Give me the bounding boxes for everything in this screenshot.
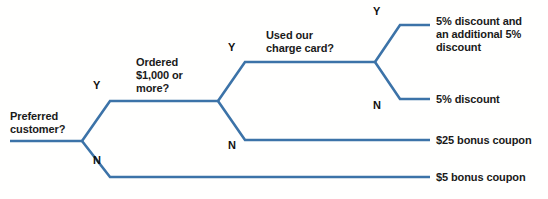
outcome-label-line: 5% discount [436, 93, 544, 106]
edge-node2-yes [218, 62, 375, 101]
node-label-line: Preferred [10, 110, 94, 123]
outcome-label-line: $5 bonus coupon [436, 171, 548, 184]
outcome-label-line: discount [436, 41, 544, 54]
branch-label-node2-yes: Y [228, 42, 235, 53]
outcome-label-line: an additional 5% [436, 28, 544, 41]
edge-node3-no [375, 62, 430, 99]
outcome-label-line: 5% discount and [436, 15, 544, 28]
branch-label-node1-yes: Y [93, 80, 100, 91]
edge-node3-yes [375, 25, 430, 62]
node-label-used-our-charge-card: Used our charge card? [266, 29, 350, 55]
edge-node1-no [82, 141, 430, 177]
node-label-preferred-customer: Preferred customer? [10, 110, 94, 136]
branch-label-node1-no: N [93, 155, 101, 166]
node-label-line: Ordered [136, 56, 216, 69]
outcome-label-5-plus-5: 5% discount and an additional 5% discoun… [436, 15, 544, 54]
node-label-line: customer? [10, 123, 94, 136]
edge-node2-no [218, 101, 430, 140]
outcome-label-line: $25 bonus coupon [436, 134, 548, 147]
node-label-ordered-1000-or-more: Ordered $1,000 or more? [136, 56, 216, 95]
node-label-line: $1,000 or [136, 69, 216, 82]
branch-label-node3-yes: Y [373, 6, 380, 17]
outcome-label-25-coupon: $25 bonus coupon [436, 134, 548, 147]
branch-label-node2-no: N [228, 140, 236, 151]
node-label-line: more? [136, 82, 216, 95]
node-label-line: Used our [266, 29, 350, 42]
outcome-label-5-coupon: $5 bonus coupon [436, 171, 548, 184]
edge-node1-yes [82, 101, 218, 141]
branch-label-node3-no: N [373, 100, 381, 111]
decision-tree-diagram: Preferred customer? Ordered $1,000 or mo… [0, 0, 548, 199]
node-label-line: charge card? [266, 42, 350, 55]
outcome-label-5-percent: 5% discount [436, 93, 544, 106]
